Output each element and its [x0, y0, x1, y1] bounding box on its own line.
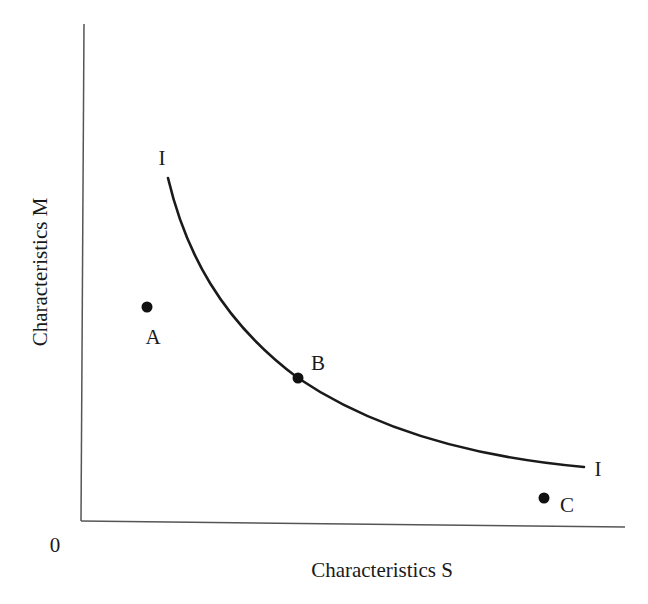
point-a-label: A — [145, 327, 160, 348]
point-b-label: B — [311, 353, 325, 374]
curve-label-top: I — [159, 148, 166, 169]
y-axis — [81, 24, 84, 521]
y-axis-label: Characteristics M — [30, 198, 51, 347]
indifference-curve — [168, 178, 584, 467]
point-c-marker — [539, 493, 550, 504]
x-axis — [81, 521, 625, 527]
point-a-marker — [142, 302, 153, 313]
curve-label-right: I — [595, 459, 602, 480]
x-axis-label: Characteristics S — [311, 560, 453, 581]
indifference-curve-diagram — [0, 0, 648, 604]
origin-label: 0 — [50, 535, 61, 556]
point-c-label: C — [560, 495, 574, 516]
point-b-marker — [293, 373, 304, 384]
